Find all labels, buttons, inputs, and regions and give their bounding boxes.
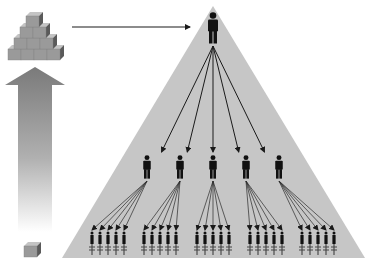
single-block-icon	[24, 242, 41, 257]
diagram-canvas	[0, 0, 369, 265]
stack-block	[26, 12, 43, 27]
growth-arrow-icon	[5, 67, 65, 232]
hierarchy-diagram	[0, 0, 369, 265]
